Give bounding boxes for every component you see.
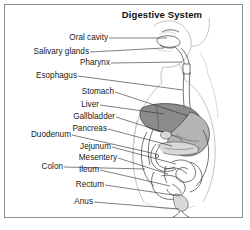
label-ileum: Ileum — [79, 165, 99, 174]
label-anus: Anus — [74, 197, 93, 206]
label-stomach: Stomach — [82, 87, 114, 96]
label-liver: Liver — [81, 100, 99, 109]
label-oral-cavity: Oral cavity — [69, 33, 108, 42]
figure-frame — [4, 4, 243, 218]
label-gallbladder: Gallbladder — [73, 112, 115, 121]
label-jejunum: Jejunum — [80, 142, 111, 151]
label-mesentery: Mesentery — [79, 153, 117, 162]
label-salivary-glands: Salivary glands — [33, 47, 89, 56]
digestive-system-figure: Digestive System — [0, 0, 250, 230]
page-title: Digestive System — [116, 9, 208, 20]
label-pharynx: Pharynx — [80, 58, 110, 67]
label-esophagus: Esophagus — [36, 71, 77, 80]
label-pancreas: Pancreas — [72, 124, 107, 133]
label-colon: Colon — [42, 162, 63, 171]
label-duodenum: Duodenum — [31, 130, 71, 139]
label-rectum: Rectum — [76, 180, 104, 189]
